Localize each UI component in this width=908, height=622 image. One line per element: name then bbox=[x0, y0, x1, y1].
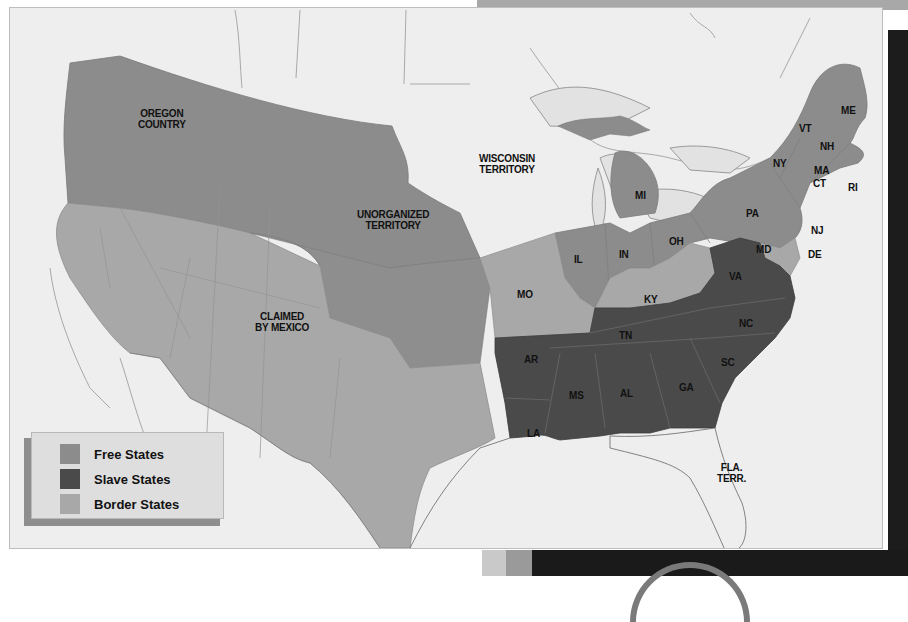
region-florida-territory bbox=[610, 428, 746, 549]
legend-item-border-states: Border States bbox=[60, 494, 179, 514]
page-bottom-swatch-light bbox=[482, 550, 508, 576]
page-bottom-swatch-mid bbox=[506, 550, 532, 576]
state-label-mo: MO bbox=[517, 289, 533, 300]
label-florida-territory: FLA.TERR. bbox=[717, 462, 746, 484]
page-right-panel bbox=[888, 30, 908, 576]
state-label-nh: NH bbox=[820, 141, 834, 152]
state-label-ms: MS bbox=[569, 390, 584, 401]
state-label-vt: VT bbox=[799, 123, 811, 134]
state-label-ct: CT bbox=[813, 178, 826, 189]
state-label-in: IN bbox=[619, 249, 629, 260]
state-label-md: MD bbox=[756, 244, 771, 255]
legend-item-free-states: Free States bbox=[60, 444, 164, 464]
state-label-sc: SC bbox=[721, 357, 735, 368]
state-label-ny: NY bbox=[773, 158, 787, 169]
state-label-tn: TN bbox=[619, 330, 632, 341]
label-claimed-by-mexico: CLAIMEDBY MEXICO bbox=[255, 311, 309, 333]
legend-swatch-free bbox=[60, 444, 80, 464]
state-label-ar: AR bbox=[524, 354, 538, 365]
state-label-nj: NJ bbox=[811, 225, 823, 236]
state-label-mi: MI bbox=[635, 190, 646, 201]
state-label-ri: RI bbox=[848, 182, 858, 193]
label-unorganized-territory: UNORGANIZEDTERRITORY bbox=[357, 209, 429, 231]
state-label-ky: KY bbox=[644, 294, 658, 305]
legend-item-slave-states: Slave States bbox=[60, 469, 171, 489]
state-label-il: IL bbox=[574, 254, 583, 265]
state-label-ga: GA bbox=[679, 382, 694, 393]
state-label-oh: OH bbox=[669, 236, 684, 247]
page-bottom-panel bbox=[532, 550, 908, 576]
state-label-al: AL bbox=[620, 388, 633, 399]
legend-label-border: Border States bbox=[94, 497, 179, 512]
state-label-pa: PA bbox=[746, 208, 759, 219]
legend-swatch-slave bbox=[60, 469, 80, 489]
legend-label-slave: Slave States bbox=[94, 472, 171, 487]
state-label-ma: MA bbox=[814, 165, 829, 176]
label-oregon-country: OREGONCOUNTRY bbox=[138, 108, 186, 130]
state-label-va: VA bbox=[729, 271, 742, 282]
state-label-de: DE bbox=[808, 249, 822, 260]
map-legend: Free States Slave States Border States bbox=[31, 432, 224, 519]
state-label-nc: NC bbox=[739, 318, 753, 329]
legend-label-free: Free States bbox=[94, 447, 164, 462]
label-wisconsin-territory: WISCONSINTERRITORY bbox=[479, 153, 535, 175]
state-label-la: LA bbox=[527, 428, 540, 439]
region-michigan bbox=[611, 151, 658, 218]
legend-swatch-border bbox=[60, 494, 80, 514]
state-label-me: ME bbox=[841, 105, 856, 116]
globe-icon bbox=[630, 562, 750, 622]
